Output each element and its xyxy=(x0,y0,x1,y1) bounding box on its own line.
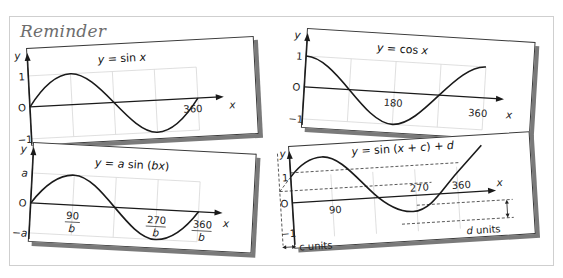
x-axis-label: x xyxy=(222,217,231,229)
d-units-label: d units xyxy=(466,223,501,236)
x-tick-270: 270 xyxy=(409,181,429,193)
x-tick-180: 180 xyxy=(383,97,403,109)
cos-graph: y 1 O −1 180 360 x y = cos x xyxy=(302,29,537,143)
svg-text:b: b xyxy=(152,226,160,238)
c-units-label: c units xyxy=(299,239,333,252)
y-tick-neg1: −1 xyxy=(281,228,296,240)
x-axis-label: x xyxy=(495,176,504,188)
c-arrow-right-icon xyxy=(292,245,296,249)
sin-graph-card: y 1 O −1 360 x y = sin x xyxy=(26,36,259,146)
x-tick-360-over-b: 360 b xyxy=(191,218,212,243)
svg-text:90: 90 xyxy=(66,210,79,222)
y-tick-origin: O xyxy=(18,102,27,113)
y-tick-neg-a: −a xyxy=(12,226,28,239)
y-axis-label: y xyxy=(13,49,22,61)
asinbx-graph-card: y a O −a 90 b 270 b 360 b x y = a sin (b… xyxy=(28,142,257,254)
svg-text:b: b xyxy=(198,231,206,243)
y-tick-a: a xyxy=(21,166,28,178)
x-arrow-icon xyxy=(488,187,496,193)
cos-graph-card: y 1 O −1 180 360 x y = cos x xyxy=(301,28,536,142)
equation: y = a sin (bx) xyxy=(94,156,170,173)
x-tick-90: 90 xyxy=(329,204,342,216)
equation: y = sin x xyxy=(96,51,147,67)
svg-text:360: 360 xyxy=(193,218,213,230)
x-tick-270-over-b: 270 b xyxy=(145,214,166,239)
x-tick-360: 360 xyxy=(451,179,471,191)
equation: y = sin (x + c) + d xyxy=(350,139,455,158)
d-arrow-down-icon xyxy=(506,214,510,218)
x-tick-360: 360 xyxy=(468,107,488,119)
y-tick-origin: O xyxy=(19,197,28,208)
sinxcd-graph-card: y 1 O −1 90 270 360 x c units d units y … xyxy=(288,131,536,249)
y-tick-neg1: −1 xyxy=(288,113,303,125)
svg-text:270: 270 xyxy=(147,214,167,226)
y-tick-1: 1 xyxy=(18,71,25,82)
x-axis xyxy=(31,203,219,213)
y-tick-origin: O xyxy=(292,81,301,92)
x-axis-label: x xyxy=(505,108,514,120)
max-guide xyxy=(291,163,461,173)
svg-text:b: b xyxy=(68,222,76,234)
x-arrow-icon xyxy=(496,96,504,102)
x-arrow-icon xyxy=(216,94,224,100)
sin-graph: y 1 O −1 360 x y = sin x xyxy=(27,37,260,147)
equation: y = cos x xyxy=(376,41,429,57)
sinxcd-graph: y 1 O −1 90 270 360 x c units d units y … xyxy=(289,132,537,250)
x-axis xyxy=(292,191,492,203)
x-arrow-icon xyxy=(214,210,222,216)
y-tick-1: 1 xyxy=(296,50,303,61)
reminder-title: Reminder xyxy=(20,21,106,41)
y-tick-origin: O xyxy=(280,198,289,209)
x-tick-90-over-b: 90 b xyxy=(64,210,80,235)
x-axis-label: x xyxy=(228,98,237,110)
sin-curve xyxy=(28,67,199,139)
x-tick-360: 360 xyxy=(183,103,203,115)
y-tick-1: 1 xyxy=(282,172,289,183)
d-arrow-up-icon xyxy=(505,200,509,204)
asinbx-graph: y a O −a 90 b 270 b 360 b x y = a sin (b… xyxy=(29,143,258,255)
d-arrow xyxy=(507,202,508,216)
asinbx-curve xyxy=(29,173,200,242)
